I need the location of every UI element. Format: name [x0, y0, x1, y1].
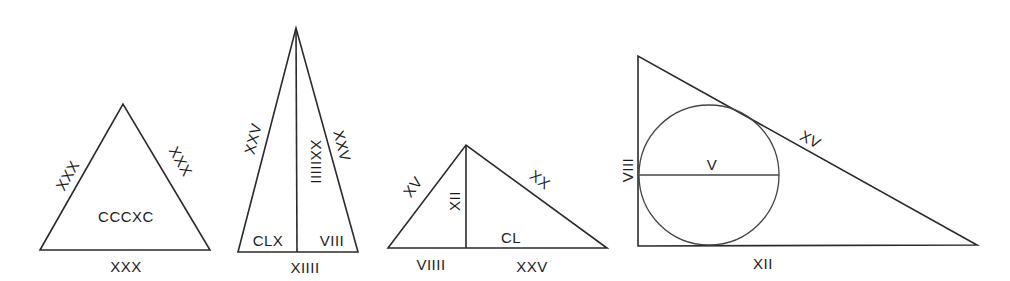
vertical-leg-label: VIII — [619, 158, 636, 183]
roman-numeral-geometry-diagram: XXX XXX CCCXC XXX XXV XXV XXIIIII CLX VI… — [0, 0, 1010, 281]
left-side-label: XV — [399, 173, 425, 200]
left-base-label: VIIII — [416, 256, 445, 273]
right-triangle-with-inscribed-circle: V VIII XV XII — [619, 56, 977, 272]
isosceles-triangle-with-altitude: XXV XXV XXIIIII CLX VIII XIIII — [238, 28, 358, 276]
area-label: CCCXC — [98, 208, 154, 225]
right-area-label: VIII — [320, 232, 345, 249]
horizontal-leg-label: XII — [753, 255, 773, 272]
right-side-label: XX — [527, 166, 554, 192]
triangle-outline — [388, 145, 607, 248]
left-side-label: XXX — [52, 157, 82, 193]
scalene-triangle-with-altitude: XV XX XII CL VIIII XXV — [388, 145, 607, 275]
left-side-label: XXV — [241, 121, 265, 156]
altitude-label: XXIIIII — [308, 140, 325, 184]
triangle-outline — [638, 56, 977, 246]
base-label: XIIII — [290, 259, 319, 276]
diameter-label: V — [707, 156, 718, 173]
base-label: XXX — [110, 258, 142, 275]
area-label: CL — [501, 229, 521, 246]
equilateral-triangle: XXX XXX CCCXC XXX — [40, 104, 210, 275]
left-area-label: CLX — [253, 232, 284, 249]
right-side-label: XXX — [166, 143, 196, 179]
altitude-label: XII — [446, 191, 463, 211]
altitude-line — [296, 28, 297, 252]
right-base-label: XXV — [516, 258, 548, 275]
right-side-label: XXV — [330, 128, 354, 163]
